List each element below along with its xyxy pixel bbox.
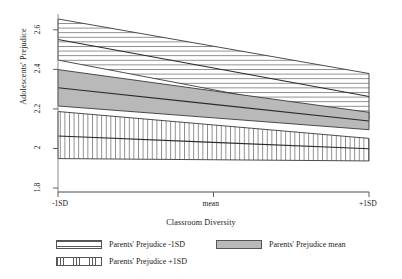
legend-item-parents-prejudice-plus1sd: Parents' Prejudice +1SD (56, 257, 187, 266)
legend-item-parents-prejudice-minus1sd: Parents' Prejudice -1SD (56, 240, 185, 249)
legend-label: Parents' Prejudice +1SD (109, 257, 187, 266)
legend-swatch-horizontal-hatch (56, 240, 102, 249)
chart-figure: 1.822.22.42.6 -1SDmean+1SD Adolescents' … (0, 0, 402, 279)
y-tick-label: 2.6 (33, 14, 42, 44)
plot-area (58, 19, 369, 161)
legend-label: Parents' Prejudice mean (269, 240, 346, 249)
y-tick-label: 2.4 (33, 54, 42, 84)
x-axis-label: Classroom Diversity (0, 218, 402, 227)
chart-legend: Parents' Prejudice -1SD Parents' Prejudi… (0, 240, 402, 271)
y-tick-label: 2.2 (33, 93, 42, 123)
x-tick-label: -1SD (52, 199, 68, 208)
x-tick-label: +1SD (359, 199, 377, 208)
y-tick-label: 1.8 (33, 173, 42, 203)
y-tick-label: 2 (33, 133, 42, 163)
legend-swatch-vertical-hatch (56, 257, 102, 266)
legend-item-parents-prejudice-mean: Parents' Prejudice mean (216, 240, 346, 249)
chart-canvas (0, 0, 402, 279)
x-tick-label: mean (203, 199, 219, 208)
legend-label: Parents' Prejudice -1SD (109, 240, 185, 249)
y-axis-label: Adolescents' Prejudice (19, 0, 28, 137)
legend-swatch-solid-gray (216, 240, 262, 249)
